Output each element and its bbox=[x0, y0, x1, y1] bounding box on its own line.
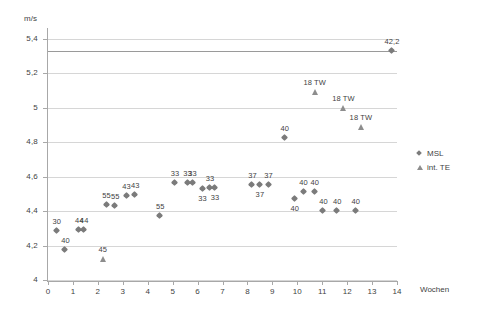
y-axis-label: 4,4 bbox=[4, 206, 38, 215]
plot-area: 3040444455554343553333333333333737374040… bbox=[48, 30, 397, 280]
x-axis-label: 4 bbox=[138, 287, 158, 296]
triangle-marker-icon bbox=[312, 89, 318, 95]
data-label: 40 bbox=[51, 236, 79, 245]
diamond-marker-icon bbox=[333, 207, 340, 214]
diamond-marker-icon bbox=[352, 207, 359, 214]
x-axis-label: 9 bbox=[262, 287, 282, 296]
y-axis-tick bbox=[43, 108, 48, 109]
diamond-marker-icon bbox=[103, 201, 110, 208]
y-axis-label: 5,4 bbox=[4, 34, 38, 43]
x-axis-label: 12 bbox=[337, 287, 357, 296]
data-label: 44 bbox=[70, 216, 98, 225]
x-axis-tick bbox=[173, 281, 174, 285]
y-axis-label: 5,2 bbox=[4, 68, 38, 77]
y-axis-label: 4,2 bbox=[4, 241, 38, 250]
x-axis-tick bbox=[48, 281, 49, 285]
diamond-marker-icon bbox=[299, 188, 306, 195]
x-axis-label: 13 bbox=[362, 287, 382, 296]
y-axis-label: 4 bbox=[4, 275, 38, 284]
data-label: 42,2 bbox=[378, 37, 406, 46]
y-axis-label: 5 bbox=[4, 103, 38, 112]
triangle-marker-icon bbox=[416, 163, 424, 171]
x-axis-tick bbox=[148, 281, 149, 285]
x-axis-label: 7 bbox=[213, 287, 233, 296]
legend-item-triangle[interactable]: int. TE bbox=[416, 160, 450, 174]
diamond-marker-icon bbox=[388, 47, 395, 54]
gridline-y bbox=[48, 142, 397, 143]
gridline-y bbox=[48, 39, 397, 40]
x-axis-tick bbox=[347, 281, 348, 285]
y-axis-tick bbox=[43, 211, 48, 212]
triangle-marker-icon bbox=[340, 105, 346, 111]
y-axis-tick bbox=[43, 39, 48, 40]
gridline-y bbox=[48, 211, 397, 212]
x-axis-label: 3 bbox=[113, 287, 133, 296]
data-label: 18 TW bbox=[329, 94, 357, 103]
x-axis-label: 14 bbox=[387, 287, 407, 296]
data-label: 18 TW bbox=[347, 113, 375, 122]
data-label: 37 bbox=[246, 190, 274, 199]
diamond-marker-icon bbox=[80, 226, 87, 233]
data-label: 33 bbox=[196, 174, 224, 183]
x-axis-tick bbox=[297, 281, 298, 285]
x-axis-tick bbox=[123, 281, 124, 285]
x-axis-tick bbox=[98, 281, 99, 285]
diamond-marker-icon bbox=[265, 181, 272, 188]
data-label: 37 bbox=[255, 171, 283, 180]
x-axis-tick bbox=[272, 281, 273, 285]
y-axis-tick bbox=[43, 177, 48, 178]
data-label: 33 bbox=[201, 193, 229, 202]
triangle-marker-icon bbox=[358, 124, 364, 130]
diamond-marker-icon bbox=[256, 181, 263, 188]
legend-label: MSL bbox=[427, 149, 443, 158]
data-label: 45 bbox=[89, 245, 117, 254]
y-axis-label: 4,6 bbox=[4, 172, 38, 181]
diamond-marker-icon bbox=[131, 191, 138, 198]
y-axis-tick bbox=[43, 73, 48, 74]
gridline-y bbox=[48, 73, 397, 74]
diamond-marker-icon bbox=[111, 202, 118, 209]
data-label: 40 bbox=[342, 197, 370, 206]
legend-item-diamond[interactable]: MSL bbox=[416, 146, 450, 160]
data-label: 43 bbox=[121, 181, 149, 190]
diamond-marker-icon bbox=[211, 184, 218, 191]
diamond-marker-icon bbox=[416, 149, 424, 157]
data-label: 40 bbox=[301, 178, 329, 187]
data-label: 18 TW bbox=[301, 78, 329, 87]
y-axis-tick bbox=[43, 142, 48, 143]
diamond-marker-icon bbox=[171, 179, 178, 186]
x-axis-label: 8 bbox=[237, 287, 257, 296]
data-label: 40 bbox=[281, 204, 309, 213]
x-axis-tick bbox=[247, 281, 248, 285]
y-axis-label: 4,8 bbox=[4, 137, 38, 146]
legend-label: int. TE bbox=[427, 163, 450, 172]
diamond-marker-icon bbox=[281, 134, 288, 141]
x-axis-tick bbox=[223, 281, 224, 285]
x-axis-title: Wochen bbox=[420, 285, 449, 294]
x-axis-tick bbox=[322, 281, 323, 285]
diamond-marker-icon bbox=[53, 227, 60, 234]
x-axis-tick bbox=[397, 281, 398, 285]
x-axis-label: 1 bbox=[63, 287, 83, 296]
x-axis-label: 2 bbox=[88, 287, 108, 296]
diamond-marker-icon bbox=[291, 195, 298, 202]
diamond-marker-icon bbox=[61, 246, 68, 253]
data-label: 55 bbox=[146, 202, 174, 211]
x-axis-tick bbox=[372, 281, 373, 285]
triangle-marker-icon bbox=[100, 256, 106, 262]
diamond-marker-icon bbox=[189, 179, 196, 186]
chart-legend: MSLint. TE bbox=[416, 146, 450, 174]
y-axis-title: m/s bbox=[24, 14, 37, 23]
diamond-marker-icon bbox=[311, 188, 318, 195]
x-axis-label: 5 bbox=[163, 287, 183, 296]
x-axis-tick bbox=[73, 281, 74, 285]
scatter-chart: m/s Wochen 30404444555543435533333333333… bbox=[0, 0, 481, 319]
x-axis-label: 10 bbox=[287, 287, 307, 296]
y-axis-tick bbox=[43, 246, 48, 247]
diamond-marker-icon bbox=[156, 212, 163, 219]
x-axis-label: 11 bbox=[312, 287, 332, 296]
x-axis-label: 6 bbox=[188, 287, 208, 296]
reference-line bbox=[48, 51, 397, 52]
diamond-marker-icon bbox=[248, 181, 255, 188]
diamond-marker-icon bbox=[319, 207, 326, 214]
